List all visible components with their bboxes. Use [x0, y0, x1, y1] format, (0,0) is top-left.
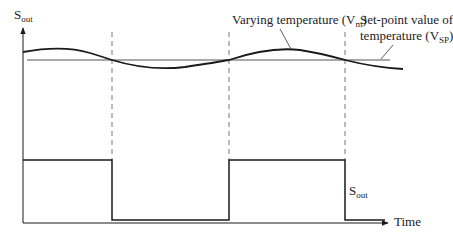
varying-temperature-curve — [23, 49, 403, 69]
setpoint-label-close: ) — [449, 28, 453, 43]
signal-label-sub: out — [356, 190, 368, 200]
setpoint-label-sub: SP — [439, 35, 449, 45]
s-out-square-wave — [23, 160, 385, 220]
time-label: Time — [394, 214, 421, 229]
s-out-signal-label: Sout — [349, 184, 368, 202]
setpoint-label-main: temperature (V — [360, 28, 439, 43]
setpoint-leader-line — [381, 45, 393, 59]
setpoint-label-line2: temperature (VSP) — [360, 29, 453, 47]
y-axis-label: Sout — [14, 8, 33, 26]
varying-label-main: Varying temperature (V — [232, 12, 355, 27]
time-axis-label: Time — [394, 215, 421, 229]
varying-leader-line — [280, 29, 291, 49]
setpoint-label: Set-point value of temperature (VSP) — [360, 13, 453, 47]
varying-temperature-label: Varying temperature (Vm) — [232, 13, 367, 31]
setpoint-label-line1: Set-point value of — [360, 13, 453, 27]
y-axis-label-sub: out — [21, 14, 33, 24]
